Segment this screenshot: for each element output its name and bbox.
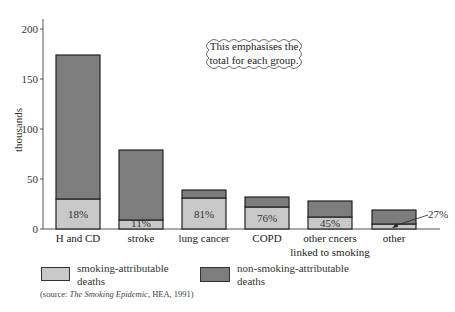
- bar-non-smoking: [56, 55, 100, 199]
- category-label: lung cancer: [179, 232, 230, 244]
- category-label: COPD: [252, 232, 281, 244]
- bar-group: 81%lung cancer: [179, 190, 230, 244]
- category-label: H and CD: [56, 232, 101, 244]
- source-prefix: (source:: [40, 289, 70, 299]
- category-label: linked to smoking: [290, 246, 370, 258]
- percent-label: 81%: [194, 208, 214, 220]
- annotation-cloud: This emphasises the total for each group…: [207, 40, 302, 69]
- bar-non-smoking: [182, 190, 226, 198]
- y-tick-label: 50: [27, 173, 39, 185]
- legend-swatch-non-smoking: [200, 267, 230, 282]
- y-tick-label: 150: [22, 73, 39, 85]
- y-tick-label: 200: [22, 23, 39, 35]
- source-note: (source: The Smoking Epidemic, HEA, 1991…: [40, 289, 194, 299]
- legend-swatch-smoking: [41, 267, 70, 281]
- legend-non-smoking-line-1: non-smoking-attributable: [237, 262, 349, 275]
- annotation-line-2: total for each group.: [209, 54, 298, 66]
- legend-smoking-line-2: deaths: [77, 275, 169, 288]
- category-label: stroke: [128, 232, 155, 244]
- y-tick-label: 0: [33, 223, 39, 235]
- bar-non-smoking: [119, 150, 163, 220]
- category-label: other: [383, 232, 406, 244]
- bar-non-smoking: [308, 201, 352, 217]
- annotation-line-1: This emphasises the: [210, 40, 299, 52]
- percent-label: 18%: [68, 208, 88, 220]
- percent-label: 45%: [320, 217, 340, 229]
- legend-smoking-line-1: smoking-attributable: [77, 262, 169, 275]
- bar-group: 76%COPD: [245, 197, 289, 244]
- category-label: other cncers: [303, 232, 356, 244]
- bar-non-smoking: [372, 210, 416, 224]
- bar-group: 18%H and CD: [56, 55, 101, 244]
- source-title: The Smoking Epidemic: [70, 289, 148, 299]
- bar-non-smoking: [245, 197, 289, 207]
- source-suffix: , HEA, 1991): [148, 289, 194, 299]
- percent-label: 76%: [257, 212, 277, 224]
- y-tick-label: 100: [22, 123, 39, 135]
- bars: 18%H and CD11%stroke81%lung cancer76%COP…: [56, 55, 448, 258]
- legend-label-non-smoking: non-smoking-attributable deaths: [237, 262, 349, 288]
- percent-label: 27%: [428, 208, 448, 220]
- bar-group: 11%stroke: [119, 150, 163, 244]
- bar-group: 27%other: [372, 208, 448, 244]
- legend-label-smoking: smoking-attributable deaths: [77, 262, 169, 288]
- percent-label: 11%: [131, 217, 151, 229]
- legend-non-smoking-line-2: deaths: [237, 275, 349, 288]
